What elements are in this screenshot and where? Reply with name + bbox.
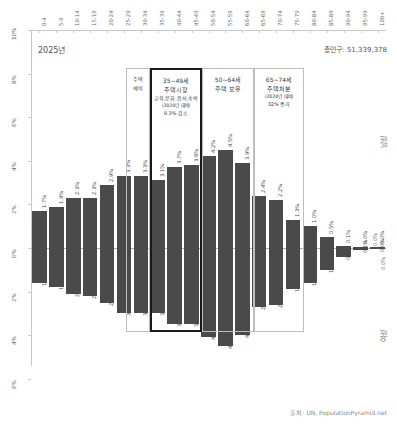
x-tick-mark — [310, 30, 311, 33]
bar-label-female: 0.0% — [380, 238, 385, 251]
annotation-box-housing-dispose: 65~74세주택처분(2020년 대비)32% 증가 — [254, 68, 304, 332]
bar-male — [32, 211, 47, 248]
y-tick-label: 0% — [12, 249, 18, 258]
annotation-box-housing-hold: 50~64세주택 보유 — [202, 68, 254, 332]
x-tick-mark — [124, 30, 125, 33]
age-group-label: 5-9 — [59, 17, 64, 26]
x-tick-mark — [276, 30, 277, 33]
y-tick-label: 8% — [12, 75, 18, 84]
age-group-label: 0-4 — [42, 17, 47, 26]
annotation-line: (2020년 대비) — [152, 102, 200, 109]
bar-label-male: 0.1% — [346, 230, 351, 243]
bar-label-male: 1.7% — [42, 195, 47, 208]
age-group-label: 10-14 — [75, 10, 80, 26]
x-tick-mark — [90, 30, 91, 33]
x-tick-mark — [39, 30, 40, 33]
x-tick-mark — [259, 30, 260, 33]
y-tick-mark — [28, 335, 31, 336]
bar-male — [66, 198, 81, 248]
age-group-label: 65-69 — [261, 10, 266, 26]
age-group-label: 75-79 — [295, 10, 300, 26]
x-tick-mark — [56, 30, 57, 33]
y-tick-mark — [28, 379, 31, 380]
annotation-line: 주택 보유 — [203, 84, 253, 93]
age-group-label: 70-74 — [278, 10, 283, 26]
bar-label-female: 2.5% — [109, 292, 114, 305]
age-group-label: 80-84 — [312, 10, 317, 26]
annotation-line: 50~64세 — [203, 75, 253, 84]
x-tick-mark — [158, 30, 159, 33]
x-tick-mark — [192, 30, 193, 33]
x-tick-mark — [242, 30, 243, 33]
y-tick-label: 6% — [12, 380, 18, 389]
y-tick-label: 6% — [12, 118, 18, 127]
bar-male — [100, 185, 115, 248]
age-group-label: 55-59 — [228, 10, 233, 26]
age-group-label: 30-34 — [143, 10, 148, 26]
x-tick-mark — [175, 30, 176, 33]
age-group-label: 85-89 — [329, 10, 334, 26]
annotation-line: 35~49세 — [152, 76, 200, 85]
y-tick-label: 10% — [12, 28, 18, 40]
x-tick-mark — [107, 30, 108, 33]
year-label: 2025년 — [38, 44, 65, 55]
female-zero-pct: 0.0% — [380, 257, 386, 270]
x-tick-mark — [327, 30, 328, 33]
y-tick-label: 2% — [12, 206, 18, 215]
bar-male — [303, 226, 318, 248]
bar-label-male: 2.9% — [109, 169, 114, 182]
annotation-line: (2020년 대비) — [255, 93, 303, 100]
annotation-line: 교육,문화,음식,숙박 — [152, 94, 200, 102]
y-tick-mark — [28, 161, 31, 162]
bar-label-female: 1.8% — [59, 277, 64, 290]
x-tick-mark — [73, 30, 74, 33]
age-group-label: 20-24 — [109, 10, 114, 26]
annotation-line: 65~74세 — [255, 75, 303, 84]
age-group-label: 35-39 — [160, 10, 165, 26]
age-group-label: 25-29 — [126, 10, 131, 26]
annotation-line: 32% 증가 — [255, 100, 303, 108]
male-legend-label: 남성 — [378, 136, 388, 148]
female-legend-label: 여성 — [378, 330, 388, 342]
x-tick-mark — [141, 30, 142, 33]
bar-label-female: 1.0% — [329, 260, 334, 273]
age-group-label: 45-49 — [194, 10, 199, 26]
y-tick-mark — [28, 74, 31, 75]
y-tick-label: 4% — [12, 162, 18, 171]
x-tick-mark — [361, 30, 362, 33]
source-credit: 출처: UN, PopulationPyramid.net — [290, 408, 387, 417]
bar-label-female: 1.6% — [312, 273, 317, 286]
x-tick-mark — [293, 30, 294, 33]
bar-label-male: 0.5% — [329, 221, 334, 234]
male-zero-pct: 0.0% — [372, 233, 378, 246]
total-population-label: 총인구: 51,339,378 — [324, 44, 387, 54]
annotation-box-pre-housing: 주택예비 — [126, 68, 150, 332]
y-tick-label: 4% — [12, 336, 18, 345]
age-group-label: 15-19 — [92, 10, 97, 26]
age-group-label: 95-99 — [363, 10, 368, 26]
annotation-line: 예비 — [127, 84, 149, 93]
bar-male — [320, 237, 335, 248]
bar-label-female: 0.1% — [363, 240, 368, 253]
bar-label-male: 1.0% — [312, 210, 317, 223]
y-tick-mark — [28, 248, 31, 249]
y-tick-mark — [28, 292, 31, 293]
annotation-box-housing-market: 35~49세주택시장교육,문화,음식,숙박(2020년 대비)9.3% 감소 — [150, 68, 202, 332]
y-tick-mark — [28, 204, 31, 205]
bar-label-female: 2.1% — [75, 284, 80, 297]
annotation-line: 주택 — [127, 75, 149, 84]
bar-label-male: 1.9% — [59, 190, 64, 203]
bar-male — [83, 198, 98, 248]
bar-label-female: 0.4% — [346, 247, 351, 260]
bar-label-male: 2.3% — [92, 182, 97, 195]
x-tick-mark — [344, 30, 345, 33]
bar-label-female: 4.5% — [228, 336, 233, 349]
bar-label-female: 2.2% — [92, 286, 97, 299]
x-tick-mark — [378, 30, 379, 33]
y-tick-mark — [28, 30, 31, 31]
age-group-label: 60-64 — [245, 10, 250, 26]
age-group-label: 50-54 — [211, 10, 216, 26]
bar-label-female: 1.6% — [42, 273, 47, 286]
y-axis-line — [31, 30, 32, 366]
age-group-label: 90-94 — [346, 10, 351, 26]
